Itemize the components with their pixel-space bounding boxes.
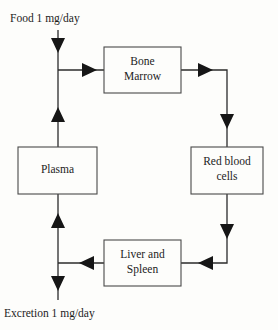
- connector-plasma-to-bone-marrow: [58, 63, 104, 77]
- iron-cycle-diagram: Bone Marrow Red blood cells Plasma Liver…: [0, 0, 278, 330]
- arrowhead-food-down-icon: [51, 38, 65, 53]
- arrowhead-liver-left-icon: [198, 256, 213, 270]
- liver-and-spleen-label-line1: Liver and: [120, 248, 165, 260]
- node-plasma[interactable]: Plasma: [18, 147, 97, 194]
- line-rbc-to-liver: [181, 194, 227, 263]
- arrowhead-plasma-left-icon: [79, 256, 94, 270]
- red-blood-cells-label-line1: Red blood: [203, 155, 251, 167]
- connector-food-to-plasma: [51, 30, 65, 147]
- output-label: Excretion 1 mg/day: [4, 307, 95, 320]
- connector-liver-and-spleen-to-plasma: [58, 256, 104, 270]
- arrowhead-rbc-branch-right-icon: [198, 63, 213, 77]
- arrowhead-rbc-down-icon: [220, 114, 234, 129]
- node-liver-and-spleen[interactable]: Liver and Spleen: [104, 240, 181, 286]
- node-bone-marrow[interactable]: Bone Marrow: [104, 47, 181, 93]
- arrowhead-bone-marrow-right-icon: [82, 63, 97, 77]
- node-red-blood-cells[interactable]: Red blood cells: [191, 147, 263, 194]
- liver-and-spleen-label-line2: Spleen: [127, 263, 159, 276]
- flow-diagram-canvas: Bone Marrow Red blood cells Plasma Liver…: [0, 0, 278, 330]
- connector-plasma-to-excretion: [51, 194, 65, 300]
- arrowhead-plasma-up-icon: [51, 107, 65, 122]
- bone-marrow-label-line1: Bone: [130, 55, 154, 67]
- arrowhead-excretion-down-icon: [51, 276, 65, 291]
- arrowhead-liver-down-icon: [220, 224, 234, 239]
- arrowhead-plasma-lower-up-icon: [51, 213, 65, 228]
- red-blood-cells-label-line2: cells: [216, 170, 238, 182]
- plasma-label: Plasma: [41, 163, 74, 175]
- input-label: Food 1 mg/day: [10, 12, 80, 25]
- bone-marrow-label-line2: Marrow: [124, 70, 162, 82]
- connector-return-into-plasma-top: [51, 107, 65, 122]
- connector-red-blood-cells-to-liver-and-spleen: [181, 194, 234, 270]
- line-bone-marrow-to-rbc: [181, 70, 227, 147]
- connector-bone-marrow-to-red-blood-cells: [181, 63, 234, 147]
